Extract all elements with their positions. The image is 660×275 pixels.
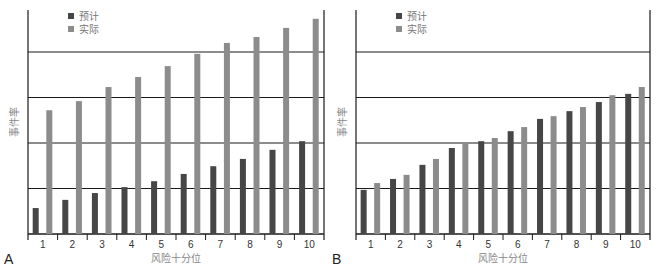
x-tick-label: 9 [603,239,609,250]
panel-label: B [332,251,341,267]
bar-predicted [419,165,425,234]
x-tick-label: 3 [99,239,105,250]
panel-b: 12345678910预计实际风险十分位事件率B [332,10,650,267]
bar-predicted [390,179,396,234]
bar-predicted [566,111,572,234]
legend-label-actual: 实际 [79,23,99,35]
bar-predicted [210,166,216,234]
x-tick-label: 8 [247,239,253,250]
bar-actual [254,37,260,234]
legend-label-actual: 实际 [407,23,427,35]
bar-predicted [449,148,455,234]
bar-predicted [151,181,157,234]
x-tick-label: 8 [574,239,580,250]
x-tick-label: 10 [630,239,642,250]
x-tick-label: 9 [277,239,283,250]
x-tick-label: 10 [304,239,316,250]
bar-predicted [478,141,484,234]
bar-actual [404,175,410,234]
y-axis-title: 事件率 [336,107,348,137]
legend-swatch-predicted [68,13,74,19]
legend-swatch-actual [396,26,402,32]
panel-a: 12345678910预计实际风险十分位事件率A [4,10,324,267]
legend-swatch-predicted [396,13,402,19]
x-tick-label: 2 [70,239,76,250]
x-tick-label: 4 [129,239,135,250]
x-tick-label: 3 [427,239,433,250]
bar-actual [639,87,645,234]
bar-actual [224,43,230,234]
x-tick-label: 1 [368,239,374,250]
bar-predicted [181,174,187,234]
bar-actual [433,159,439,234]
bar-predicted [596,102,602,234]
panel-label: A [4,251,14,267]
x-axis-title: 风险十分位 [478,252,528,264]
legend-swatch-actual [68,26,74,32]
bar-actual [283,28,289,234]
bar-predicted [240,159,246,234]
bar-actual [46,110,52,234]
bar-actual [313,19,319,234]
bar-predicted [62,200,68,234]
x-axis-title: 风险十分位 [151,252,201,264]
bar-actual [580,107,586,234]
x-tick-label: 6 [188,239,194,250]
x-tick-label: 6 [515,239,521,250]
x-tick-label: 5 [486,239,492,250]
x-tick-label: 5 [158,239,164,250]
bar-actual [374,183,380,234]
bar-predicted [361,190,367,234]
x-tick-label: 2 [397,239,403,250]
bar-predicted [299,141,305,234]
bar-actual [609,95,615,234]
x-tick-label: 7 [218,239,224,250]
legend-label-predicted: 预计 [79,10,99,22]
bar-predicted [625,94,631,234]
legend-label-predicted: 预计 [407,10,427,22]
bar-actual [462,143,468,234]
x-tick-label: 4 [456,239,462,250]
bar-predicted [92,193,98,234]
bar-actual [521,127,527,234]
y-axis-title: 事件率 [8,107,20,137]
x-tick-label: 1 [40,239,46,250]
bar-predicted [269,150,275,234]
x-tick-label: 7 [544,239,550,250]
bar-actual [135,77,141,234]
bar-actual [551,116,557,234]
bar-predicted [33,208,39,234]
bar-predicted [508,131,514,234]
bar-actual [194,54,200,234]
bar-actual [492,138,498,234]
bar-actual [106,87,112,234]
bar-actual [165,66,171,234]
bar-actual [76,101,82,234]
bar-predicted [537,119,543,234]
chart-figure: 12345678910预计实际风险十分位事件率A 12345678910预计实际… [0,0,660,275]
bar-predicted [121,187,127,234]
